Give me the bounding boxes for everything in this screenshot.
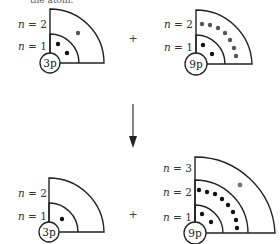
electron-icon [200,22,204,26]
electron-icon [232,46,236,50]
electron-icon [234,218,238,222]
transition-arrow [129,104,137,148]
electron-icon [223,31,227,35]
label-n2: n = 2 [164,18,193,30]
electron-icon [205,190,209,194]
electron-transfer-diagram: tile atom. n = 2 n = 1 3p + n = 2 n = 1 … [0,0,280,244]
label-n1: n = 1 [18,210,47,222]
electron-icon [216,26,220,30]
panel-top-right: n = 2 n = 1 9p [164,10,252,75]
electron-icon [76,31,80,35]
label-n1: n = 1 [164,41,193,53]
shell-n2 [50,9,104,63]
electron-icon [213,192,217,196]
electron-icon [226,203,230,207]
nucleus-label: 3p [42,226,56,238]
electron-icon [56,42,60,46]
top-caption: tile atom. [30,0,73,5]
label-n2: n = 2 [18,187,47,199]
electron-icon [200,212,204,216]
electron-icon [235,226,239,230]
electron-icon [60,217,64,221]
nucleus-label: 3p [43,57,57,69]
electron-icon [231,210,235,214]
arrow-down-icon [129,136,137,148]
label-n3: n = 3 [163,162,192,174]
electron-icon [197,188,201,192]
label-n2: n = 2 [163,186,192,198]
electron-icon [201,43,205,47]
plus-sign: + [128,208,137,221]
panel-bottom-left: n = 2 n = 1 3p [18,178,104,242]
nucleus-label: 9p [188,227,202,239]
label-n1: n = 1 [163,211,192,223]
electron-icon [208,23,212,27]
plus-sign: + [128,32,137,45]
electron-icon [65,51,69,55]
label-n2: n = 2 [18,18,47,30]
electron-icon [228,38,232,42]
electron-icon [220,197,224,201]
nucleus-label: 9p [189,58,203,70]
label-n1: n = 1 [18,40,47,52]
electron-icon [234,54,238,58]
panel-bottom-right: n = 3 n = 2 n = 1 9p [163,157,275,244]
panel-top-left: n = 2 n = 1 3p [18,9,104,73]
electron-icon [209,220,213,224]
electron-icon [210,52,214,56]
electron-icon [238,183,243,188]
